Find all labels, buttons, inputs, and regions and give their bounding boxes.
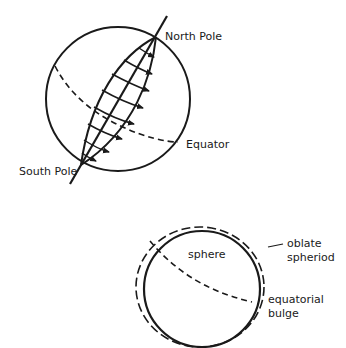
bulge-label-line1: equatorial bbox=[268, 293, 324, 306]
south-pole-label: South Pole bbox=[19, 165, 77, 178]
rotating-sphere-diagram: North Pole South Pole Equator bbox=[19, 16, 230, 184]
oblate-label-line1: oblate bbox=[287, 237, 322, 250]
earth-rotation-diagram: North Pole South Pole Equator sphere obl… bbox=[0, 0, 346, 348]
oblate-pointer bbox=[268, 244, 283, 247]
sphere-label: sphere bbox=[188, 248, 226, 261]
oblate-spheroid-diagram: sphere oblate spheriod equatorial bulge bbox=[136, 227, 335, 347]
oblate-label-line2: spheriod bbox=[287, 251, 335, 264]
equator-label: Equator bbox=[186, 138, 230, 151]
north-pole-label: North Pole bbox=[165, 30, 222, 43]
rotation-axis bbox=[70, 16, 167, 184]
bulge-label-line2: bulge bbox=[268, 307, 299, 320]
